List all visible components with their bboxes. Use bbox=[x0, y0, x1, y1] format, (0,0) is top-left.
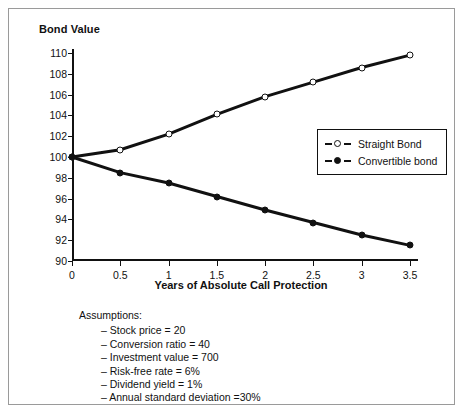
y-tick-label: 102 bbox=[49, 130, 67, 142]
y-tick-label: 110 bbox=[50, 47, 67, 59]
x-tick-mark bbox=[169, 261, 170, 266]
y-tick-label: 96 bbox=[55, 193, 67, 205]
x-tick-mark bbox=[72, 261, 73, 266]
assumption-item: – Dividend yield = 1% bbox=[101, 378, 261, 391]
assumptions-list: – Stock price = 20– Conversion ratio = 4… bbox=[79, 324, 261, 404]
open-circle-marker-icon bbox=[325, 138, 351, 149]
legend-item-straight-bond: Straight Bond bbox=[325, 135, 437, 152]
x-tick-mark bbox=[217, 261, 218, 266]
data-point bbox=[358, 232, 365, 239]
assumption-item: – Risk-free rate = 6% bbox=[101, 365, 261, 378]
data-point bbox=[213, 111, 220, 118]
figure-frame: Bond Value 9092949698100102104106108110 … bbox=[8, 8, 455, 405]
y-tick-label: 100 bbox=[49, 151, 67, 163]
data-point bbox=[407, 242, 414, 249]
data-point bbox=[262, 207, 269, 214]
data-point bbox=[310, 219, 317, 226]
x-tick-mark bbox=[313, 261, 314, 266]
y-tick-label: 108 bbox=[49, 68, 67, 80]
filled-circle-marker-icon bbox=[325, 155, 351, 166]
x-tick-mark bbox=[362, 261, 363, 266]
data-point bbox=[117, 146, 124, 153]
y-tick-label: 98 bbox=[55, 172, 67, 184]
data-point bbox=[213, 193, 220, 200]
legend-label: Convertible bond bbox=[358, 155, 437, 167]
x-axis-title: Years of Absolute Call Protection bbox=[72, 279, 410, 291]
data-point bbox=[165, 180, 172, 187]
data-point bbox=[407, 52, 414, 59]
assumption-item: – Annual standard deviation =30% bbox=[101, 391, 261, 404]
assumption-item: – Stock price = 20 bbox=[101, 324, 261, 337]
data-point bbox=[117, 169, 124, 176]
data-point bbox=[310, 79, 317, 86]
assumptions-block: Assumptions: – Stock price = 20– Convers… bbox=[79, 309, 261, 405]
y-tick-label: 92 bbox=[55, 234, 67, 246]
x-axis-ticks: 00.511.522.533.5 bbox=[72, 261, 410, 262]
y-tick-label: 104 bbox=[49, 109, 67, 121]
legend-label: Straight Bond bbox=[358, 138, 422, 150]
y-axis-title: Bond Value bbox=[39, 23, 100, 35]
y-tick-label: 90 bbox=[55, 255, 67, 267]
y-tick-label: 94 bbox=[55, 213, 67, 225]
x-tick-mark bbox=[410, 261, 411, 266]
data-point bbox=[69, 154, 76, 161]
assumption-item: – Investment value = 700 bbox=[101, 351, 261, 364]
legend: Straight Bond Convertible bond bbox=[317, 129, 447, 175]
legend-item-convertible-bond: Convertible bond bbox=[325, 152, 437, 169]
data-point bbox=[165, 131, 172, 138]
data-point bbox=[358, 64, 365, 71]
y-tick-label: 106 bbox=[49, 89, 67, 101]
assumptions-heading: Assumptions: bbox=[79, 309, 261, 322]
x-tick-mark bbox=[265, 261, 266, 266]
data-point bbox=[262, 93, 269, 100]
x-tick-mark bbox=[120, 261, 121, 266]
assumption-item: – Conversion ratio = 40 bbox=[101, 338, 261, 351]
